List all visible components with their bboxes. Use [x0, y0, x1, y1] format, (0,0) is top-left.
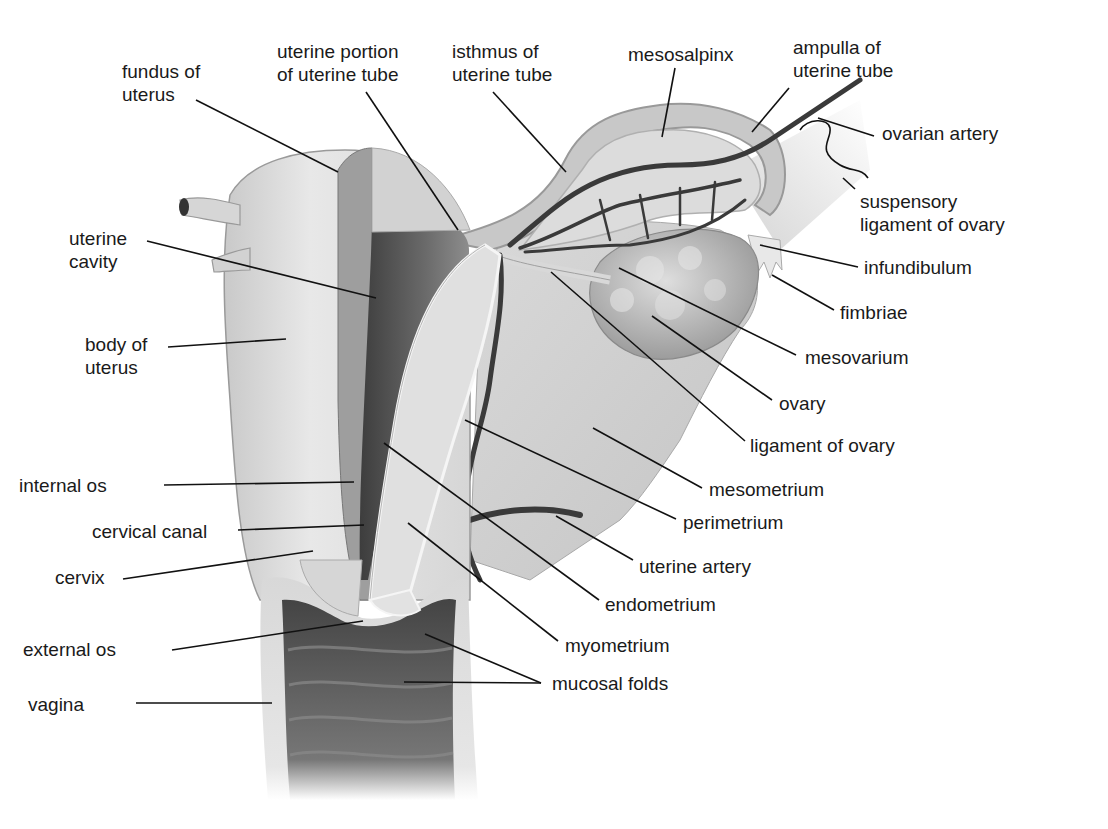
label-mucosal-folds: mucosal folds [552, 672, 668, 695]
label-cervix: cervix [55, 566, 105, 589]
label-body-of-uterus: body of uterus [85, 333, 147, 379]
label-uterine-portion-of-uterine-tube: uterine portion of uterine tube [277, 40, 398, 86]
leader-line-mucosal-folds [404, 682, 541, 683]
label-external-os: external os [23, 638, 116, 661]
label-fundus-of-uterus: fundus of uterus [122, 60, 200, 106]
label-uterine-artery: uterine artery [639, 555, 751, 578]
label-mesovarium: mesovarium [805, 346, 908, 369]
label-isthmus-of-uterine-tube: isthmus of uterine tube [452, 40, 552, 86]
label-internal-os: internal os [19, 474, 107, 497]
label-ampulla-of-uterine-tube: ampulla of uterine tube [793, 36, 893, 82]
label-mesosalpinx: mesosalpinx [628, 43, 734, 66]
label-cervical-canal: cervical canal [92, 520, 207, 543]
label-infundibulum: infundibulum [864, 256, 972, 279]
diagram-canvas: fundus of uterus uterine portion of uter… [0, 0, 1108, 829]
label-vagina: vagina [28, 693, 84, 716]
leader-line-isthmus-of-uterine-tube [493, 92, 566, 172]
label-mesometrium: mesometrium [709, 478, 824, 501]
leader-line-ampulla-of-uterine-tube [752, 88, 789, 132]
label-fimbriae: fimbriae [840, 301, 908, 324]
label-uterine-cavity: uterine cavity [69, 227, 127, 273]
label-endometrium: endometrium [605, 593, 716, 616]
leader-line-fundus-of-uterus [196, 100, 338, 172]
label-ovary: ovary [779, 392, 825, 415]
label-ovarian-artery: ovarian artery [882, 122, 998, 145]
label-perimetrium: perimetrium [683, 511, 783, 534]
label-ligament-of-ovary: ligament of ovary [750, 434, 895, 457]
leader-line-fimbriae [772, 275, 834, 310]
label-myometrium: myometrium [565, 634, 670, 657]
uterus-body [179, 148, 500, 610]
label-suspensory-ligament-of-ovary: suspensory ligament of ovary [860, 190, 1005, 236]
